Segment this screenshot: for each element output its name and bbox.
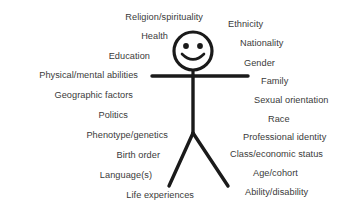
factor-label: Ability/disability — [245, 187, 308, 198]
factor-label: Family — [261, 76, 288, 87]
factor-label: Education — [109, 51, 150, 62]
figure-eye-left — [183, 43, 189, 49]
factor-label: Age/cohort — [253, 168, 298, 179]
factor-label: Class/economic status — [230, 149, 323, 160]
factor-label: Sexual orientation — [254, 95, 328, 106]
factor-label: Language(s) — [100, 170, 152, 181]
factor-label: Physical/mental abilities — [39, 70, 138, 81]
factor-label: Race — [268, 114, 290, 125]
figure-right-leg — [193, 133, 228, 186]
factor-label: Politics — [98, 110, 128, 121]
factor-label: Birth order — [117, 150, 160, 161]
factor-label: Nationality — [240, 38, 283, 49]
factor-label: Geographic factors — [54, 90, 133, 101]
factor-label: Life experiences — [126, 190, 194, 201]
factor-label: Health — [141, 31, 168, 42]
figure-left-leg — [169, 133, 193, 186]
factor-label: Religion/spirituality — [125, 12, 203, 23]
factor-label: Phenotype/genetics — [86, 130, 168, 141]
figure-head — [174, 32, 212, 70]
diagram-canvas: Religion/spiritualityHealthEducationPhys… — [0, 0, 350, 210]
factor-label: Gender — [244, 58, 275, 69]
factor-label: Ethnicity — [228, 19, 263, 30]
figure-eye-right — [197, 43, 203, 49]
factor-label: Professional identity — [243, 132, 326, 143]
